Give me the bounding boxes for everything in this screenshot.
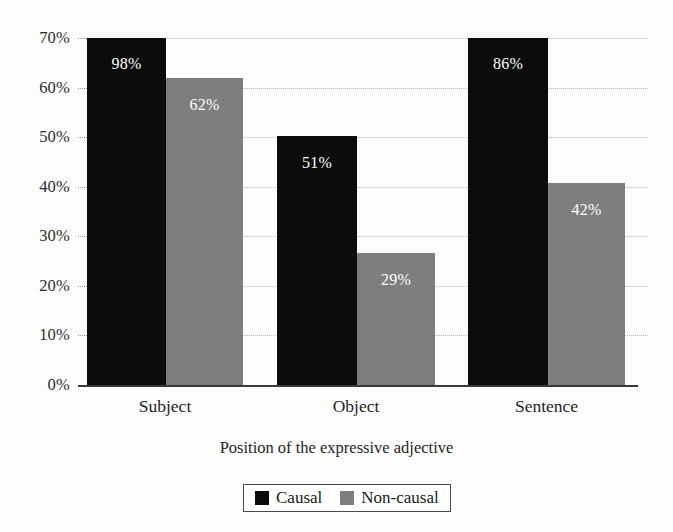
ytick-mark-50 <box>78 137 87 138</box>
chart-legend: Causal Non-causal <box>243 484 451 512</box>
square-gray-icon <box>340 491 354 505</box>
bar-label-causal-subject: 98% <box>87 55 166 73</box>
legend-label-noncausal: Non-causal <box>361 488 438 508</box>
chart-figure: 98% 62% 51% 29% 86% 42% 70% 60% 50% 40% … <box>0 0 673 532</box>
ytick-label-20: 20% <box>0 276 70 296</box>
ytick-label-50: 50% <box>0 127 70 147</box>
ytick-mark-20 <box>78 286 87 287</box>
bar-label-noncausal-subject: 62% <box>166 96 243 114</box>
ytick-mark-60 <box>78 88 87 89</box>
gridline-70 <box>87 38 648 39</box>
ytick-mark-10 <box>78 335 87 336</box>
bar-noncausal-sentence: 42% <box>548 183 625 385</box>
bar-noncausal-subject: 62% <box>166 78 243 385</box>
bar-label-causal-sentence: 86% <box>468 55 548 73</box>
ytick-label-0: 0% <box>0 375 70 395</box>
xtick-label-subject: Subject <box>87 396 243 417</box>
xtick-label-object: Object <box>277 396 435 417</box>
ytick-label-10: 10% <box>0 325 70 345</box>
legend-item-causal: Causal <box>255 488 322 508</box>
ytick-label-30: 30% <box>0 226 70 246</box>
bar-noncausal-object: 29% <box>357 253 435 385</box>
bar-causal-sentence: 86% <box>468 38 548 385</box>
ytick-label-60: 60% <box>0 78 70 98</box>
xtick-label-sentence: Sentence <box>468 396 625 417</box>
x-axis-title: Position of the expressive adjective <box>0 438 673 458</box>
ytick-mark-70 <box>78 38 87 39</box>
bar-causal-subject: 98% <box>87 38 166 385</box>
bar-label-noncausal-sentence: 42% <box>548 201 625 219</box>
bar-label-causal-object: 51% <box>277 154 357 172</box>
legend-item-noncausal: Non-causal <box>340 488 438 508</box>
ytick-label-70: 70% <box>0 28 70 48</box>
plot-area: 98% 62% 51% 29% 86% 42% <box>87 38 648 385</box>
ytick-mark-30 <box>78 236 87 237</box>
bar-label-noncausal-object: 29% <box>357 271 435 289</box>
ytick-label-40: 40% <box>0 177 70 197</box>
x-axis-line <box>78 385 638 387</box>
ytick-mark-40 <box>78 187 87 188</box>
legend-label-causal: Causal <box>276 488 322 508</box>
bar-causal-object: 51% <box>277 136 357 385</box>
square-black-icon <box>255 491 269 505</box>
